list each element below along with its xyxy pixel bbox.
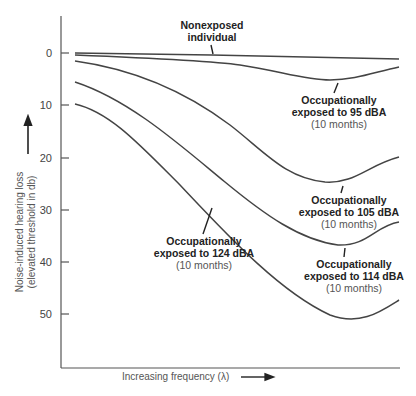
svg-text:Nonexposed: Nonexposed [180, 19, 243, 31]
y-axis-label-line2: (elevated threshold in db) [26, 176, 37, 289]
x-axis-label-group: Increasing frequency (λ) [122, 371, 270, 382]
y-tick-label: 30 [40, 204, 52, 216]
svg-text:individual: individual [187, 31, 236, 43]
leader-line [344, 248, 345, 257]
svg-text:Occupationally: Occupationally [311, 194, 386, 206]
leader-line [334, 83, 338, 93]
annotation-124-dba: Occupationally exposed to 124 dBA (10 mo… [154, 208, 255, 271]
annotation-114-dba: Occupationally exposed to 114 dBA (10 mo… [304, 248, 404, 294]
svg-text:exposed to 124 dBA: exposed to 124 dBA [154, 247, 255, 259]
annotation-nonexposed: Nonexposed individual [180, 19, 243, 54]
y-tick-label: 50 [40, 308, 52, 320]
svg-text:exposed to 114 dBA: exposed to 114 dBA [304, 270, 404, 282]
y-axis-tick-labels: 0 10 20 30 40 50 [40, 47, 52, 320]
svg-text:(10 months): (10 months) [311, 118, 367, 130]
curve-nonexposed [75, 53, 399, 59]
y-tick-label: 0 [46, 47, 52, 59]
y-tick-label: 10 [40, 99, 52, 111]
svg-text:Occupationally: Occupationally [166, 235, 241, 247]
svg-text:Occupationally: Occupationally [301, 94, 376, 106]
hearing-loss-chart: 0 10 20 30 40 50 Noise-induced hearing l… [0, 0, 416, 396]
leader-line [341, 186, 343, 193]
annotation-105-dba: Occupationally exposed to 105 dBA (10 mo… [299, 186, 400, 230]
leader-line [211, 45, 213, 54]
y-axis-label-line1: Noise-induced hearing loss [14, 172, 25, 293]
svg-text:exposed to 95 dBA: exposed to 95 dBA [292, 106, 387, 118]
y-axis-label: Noise-induced hearing loss (elevated thr… [14, 120, 37, 292]
svg-text:(10 months): (10 months) [176, 259, 232, 271]
y-tick-label: 40 [40, 256, 52, 268]
svg-text:(10 months): (10 months) [321, 218, 377, 230]
annotation-95-dba: Occupationally exposed to 95 dBA (10 mon… [292, 83, 387, 130]
svg-text:(10 months): (10 months) [326, 282, 382, 294]
y-axis-ticks [61, 53, 69, 314]
y-tick-label: 20 [40, 152, 52, 164]
svg-text:exposed to 105 dBA: exposed to 105 dBA [299, 206, 400, 218]
curve-95-dba [75, 55, 399, 80]
x-axis-label: Increasing frequency (λ) [122, 371, 229, 382]
svg-text:Occupationally: Occupationally [316, 258, 391, 270]
leader-line [203, 208, 212, 234]
